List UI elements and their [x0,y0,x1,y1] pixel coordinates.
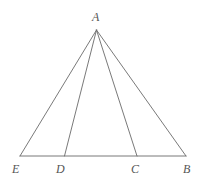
vertex-label-a: A [92,11,99,23]
segment-ab [97,30,187,156]
vertex-label-c: C [131,163,139,175]
segment-ae [20,30,97,156]
segment-ac [97,30,138,156]
figure-svg [0,0,203,183]
vertex-label-d: D [56,163,65,175]
segment-ad [65,30,97,156]
geometry-figure: AEDCB [0,0,203,183]
vertex-label-e: E [12,163,19,175]
vertex-label-b: B [183,163,190,175]
